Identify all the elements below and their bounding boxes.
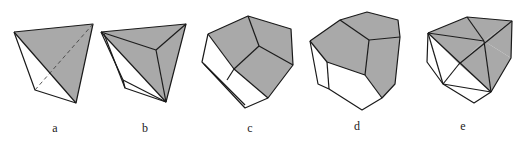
panel-label-b: b bbox=[142, 121, 148, 136]
polyhedron-b bbox=[101, 24, 186, 102]
polyhedron-c bbox=[202, 16, 293, 108]
polyhedra-figure bbox=[0, 0, 523, 141]
polyhedron-d bbox=[310, 12, 400, 110]
panel-label-e: e bbox=[460, 119, 465, 134]
edge bbox=[227, 69, 234, 80]
panel-label-a: a bbox=[52, 121, 57, 136]
edge bbox=[443, 64, 459, 84]
edge bbox=[327, 62, 329, 89]
panel-label-c: c bbox=[247, 121, 252, 136]
shaded-face bbox=[365, 37, 400, 98]
polyhedron-e bbox=[427, 17, 512, 103]
polyhedron-a bbox=[14, 24, 93, 103]
panel-label-d: d bbox=[354, 119, 360, 134]
